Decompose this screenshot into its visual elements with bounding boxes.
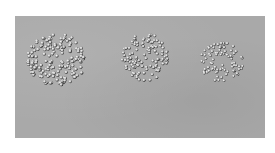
bead bbox=[43, 80, 46, 83]
bead bbox=[226, 42, 229, 45]
bead bbox=[42, 36, 45, 39]
bead bbox=[165, 54, 168, 57]
bead bbox=[165, 61, 168, 64]
bead bbox=[226, 70, 229, 73]
bead bbox=[148, 49, 151, 52]
bead bbox=[142, 45, 145, 48]
bead bbox=[122, 51, 125, 54]
bead bbox=[157, 69, 160, 72]
bead bbox=[221, 64, 224, 67]
bead bbox=[74, 68, 77, 71]
bead bbox=[145, 68, 148, 71]
bead bbox=[57, 70, 60, 73]
bead bbox=[49, 81, 52, 84]
bead bbox=[235, 50, 238, 53]
bead bbox=[137, 64, 140, 67]
bead bbox=[225, 73, 228, 76]
bead bbox=[66, 39, 69, 42]
bead bbox=[51, 52, 54, 55]
bead bbox=[40, 75, 43, 78]
bead bbox=[74, 58, 77, 61]
bead bbox=[47, 48, 50, 51]
bead bbox=[52, 33, 55, 36]
bead bbox=[209, 54, 212, 57]
bead bbox=[200, 53, 203, 56]
bead bbox=[33, 66, 36, 69]
bead bbox=[49, 41, 52, 44]
bead bbox=[240, 56, 243, 59]
bead bbox=[151, 46, 154, 49]
bead bbox=[217, 43, 220, 46]
bead bbox=[48, 54, 51, 57]
bead bbox=[204, 54, 207, 57]
bead bbox=[203, 72, 206, 75]
bead bbox=[52, 47, 55, 50]
bead bbox=[232, 75, 235, 78]
bead bbox=[235, 64, 238, 67]
bead bbox=[61, 61, 64, 64]
bead bbox=[126, 56, 129, 59]
bead bbox=[69, 50, 72, 53]
bead bbox=[61, 51, 64, 54]
bead bbox=[230, 49, 233, 52]
bead bbox=[158, 41, 161, 44]
bead-scene bbox=[15, 16, 265, 138]
bead bbox=[143, 79, 146, 82]
bead bbox=[27, 61, 30, 64]
bead bbox=[138, 71, 141, 74]
bead bbox=[125, 67, 128, 70]
bead bbox=[141, 65, 144, 68]
bead bbox=[28, 55, 31, 58]
bead bbox=[124, 59, 127, 62]
bead bbox=[147, 35, 150, 38]
bead bbox=[46, 66, 49, 69]
bead bbox=[132, 65, 135, 68]
bead bbox=[200, 60, 203, 63]
bead bbox=[161, 50, 164, 53]
bead bbox=[30, 51, 33, 54]
bead bbox=[238, 68, 241, 71]
bead bbox=[62, 37, 65, 40]
bead bbox=[56, 78, 59, 81]
bead bbox=[151, 59, 154, 62]
bead bbox=[155, 76, 158, 79]
bead bbox=[60, 76, 63, 79]
bead bbox=[71, 64, 74, 67]
bead bbox=[77, 50, 80, 53]
bead bbox=[135, 48, 138, 51]
bead bbox=[79, 66, 82, 69]
bead bbox=[146, 40, 149, 43]
bead bbox=[129, 53, 132, 56]
left-cluster bbox=[26, 33, 85, 86]
bead bbox=[123, 54, 126, 57]
bead bbox=[136, 44, 139, 47]
bead bbox=[151, 41, 154, 44]
bead bbox=[143, 71, 146, 74]
bead bbox=[41, 41, 44, 44]
bead bbox=[64, 33, 67, 36]
bead bbox=[151, 73, 154, 76]
bead bbox=[218, 49, 221, 52]
bead bbox=[153, 34, 156, 37]
bead bbox=[134, 35, 137, 38]
bead bbox=[205, 57, 208, 60]
bead bbox=[211, 62, 214, 65]
bead bbox=[35, 41, 38, 44]
bead bbox=[31, 55, 34, 58]
bead bbox=[210, 45, 213, 48]
bead bbox=[161, 53, 164, 56]
bead bbox=[60, 83, 63, 86]
bead bbox=[59, 43, 62, 46]
bead bbox=[63, 79, 66, 82]
bead bbox=[68, 67, 71, 70]
bead bbox=[138, 59, 141, 62]
bead bbox=[79, 59, 82, 62]
bead bbox=[72, 72, 75, 75]
bead bbox=[30, 45, 33, 48]
bead bbox=[133, 72, 136, 75]
bead bbox=[56, 74, 59, 77]
bead bbox=[49, 61, 52, 64]
bead bbox=[212, 58, 215, 61]
bead bbox=[213, 43, 216, 46]
bead bbox=[232, 45, 235, 48]
